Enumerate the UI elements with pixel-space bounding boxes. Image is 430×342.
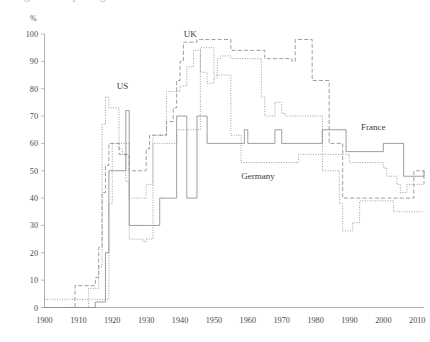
y-tick-80: 80 — [30, 85, 38, 94]
x-tick-1940: 1940 — [172, 316, 188, 325]
y-tick-20: 20 — [30, 249, 38, 258]
line-chart-svg: 0102030405060708090100 19001910192019301… — [0, 0, 430, 342]
x-tick-2000: 2000 — [375, 316, 391, 325]
series-line-france — [45, 111, 425, 308]
series-label-us: US — [117, 81, 129, 91]
y-tick-70: 70 — [30, 112, 38, 121]
series-line-uk — [45, 39, 425, 307]
y-tick-30: 30 — [30, 221, 38, 230]
x-tick-1980: 1980 — [307, 316, 323, 325]
x-tick-1960: 1960 — [240, 316, 256, 325]
y-tick-0: 0 — [34, 304, 38, 313]
chart-annotations: USUKGermanyFrance — [117, 29, 386, 181]
x-tick-1900: 1900 — [36, 316, 52, 325]
y-tick-10: 10 — [30, 276, 38, 285]
y-axis-tick-labels: 0102030405060708090100 — [26, 30, 45, 313]
y-tick-50: 50 — [30, 167, 38, 176]
series-label-uk: UK — [184, 29, 197, 39]
x-tick-1910: 1910 — [70, 316, 86, 325]
chart-series-group — [45, 39, 425, 307]
y-tick-60: 60 — [30, 139, 38, 148]
x-tick-1920: 1920 — [104, 316, 120, 325]
series-line-us — [45, 50, 425, 307]
figure-container: Figure 1. Top marginal income tax rates … — [0, 0, 430, 342]
x-tick-1990: 1990 — [341, 316, 357, 325]
x-tick-1950: 1950 — [206, 316, 222, 325]
x-tick-2010: 2010 — [409, 316, 425, 325]
y-tick-100: 100 — [26, 30, 38, 39]
y-tick-40: 40 — [30, 194, 38, 203]
series-label-germany: Germany — [241, 171, 275, 181]
x-axis-tick-labels: 1900191019201930194019501960197019801990… — [36, 316, 425, 325]
y-tick-90: 90 — [30, 57, 38, 66]
x-tick-1930: 1930 — [138, 316, 154, 325]
x-tick-1970: 1970 — [274, 316, 290, 325]
series-line-germany — [45, 48, 425, 300]
series-label-france: France — [361, 122, 386, 132]
chart-plot-area: 0102030405060708090100 19001910192019301… — [0, 0, 430, 342]
